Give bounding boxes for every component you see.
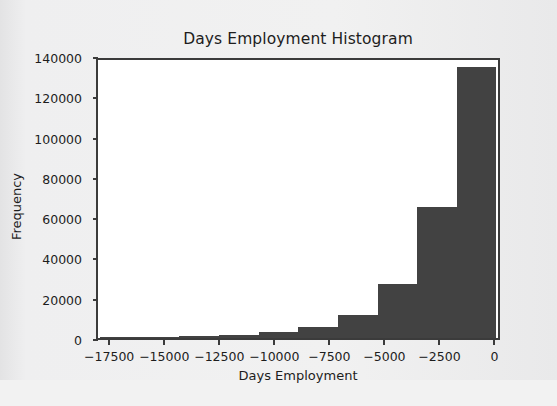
histogram-bars xyxy=(98,60,498,338)
y-axis-tick-label: 40000 xyxy=(42,252,82,267)
histogram-bar xyxy=(100,337,140,338)
histogram-bar xyxy=(338,315,378,338)
y-axis-tick-label: 100000 xyxy=(34,131,82,146)
x-axis-tick-label: −17500 xyxy=(84,349,134,364)
x-axis-tick-label: −10000 xyxy=(249,349,299,364)
x-axis-tick-label: −5000 xyxy=(363,349,405,364)
histogram-bar xyxy=(378,284,418,338)
histogram-bar xyxy=(417,207,457,338)
y-axis-tick-label: 120000 xyxy=(34,91,82,106)
y-axis-tick-label: 0 xyxy=(74,333,82,348)
plot-area xyxy=(96,58,500,340)
x-axis-tick-label: −7500 xyxy=(308,349,350,364)
x-axis-tick-label: −2500 xyxy=(418,349,460,364)
x-axis-ticks xyxy=(96,340,500,348)
x-axis-tick-labels: −17500−15000−12500−10000−7500−5000−25000 xyxy=(96,349,500,369)
y-axis-tick-label: 20000 xyxy=(42,292,82,307)
histogram-bar xyxy=(259,332,299,338)
chart-title: Days Employment Histogram xyxy=(96,30,500,48)
x-axis-tick-label: −15000 xyxy=(139,349,189,364)
x-axis-tick-label: 0 xyxy=(491,349,499,364)
x-axis-tick-label: −12500 xyxy=(194,349,244,364)
histogram-bar xyxy=(140,337,180,338)
y-axis-tick-label: 140000 xyxy=(34,51,82,66)
y-axis-tick-label: 60000 xyxy=(42,212,82,227)
histogram-bar xyxy=(219,335,259,338)
histogram-bar xyxy=(298,327,338,338)
y-axis-tick-label: 80000 xyxy=(42,171,82,186)
y-axis-tick-labels: 020000400006000080000100000120000140000 xyxy=(0,58,90,340)
x-axis-title: Days Employment xyxy=(96,368,500,383)
histogram-figure: Days Employment Histogram Frequency 0200… xyxy=(0,0,557,406)
y-axis-ticks xyxy=(90,58,98,340)
histogram-bar xyxy=(179,336,219,338)
histogram-bar xyxy=(457,67,497,338)
